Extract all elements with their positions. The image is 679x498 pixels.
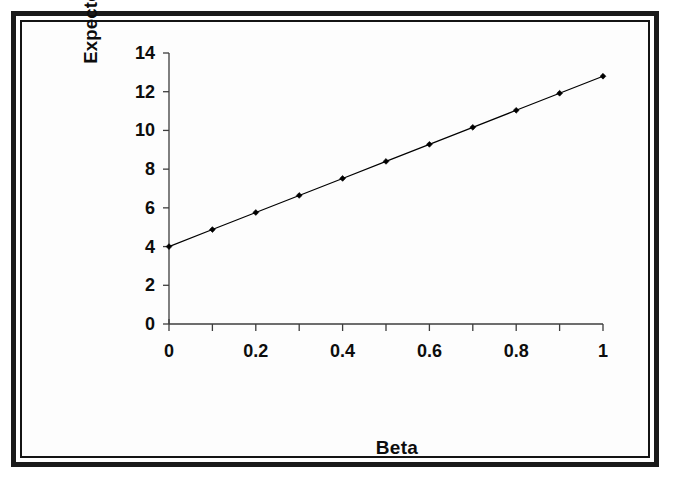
data-point-markers-group	[166, 73, 606, 249]
axes-group	[169, 53, 603, 324]
y-axis-tick-label: 10	[107, 120, 155, 141]
y-axis-tick-label: 8	[107, 159, 155, 180]
x-axis-tick-label: 0.8	[504, 341, 529, 362]
chart-plot-area: 02468101214 00.20.40.60.81 Expected Retu…	[22, 22, 648, 456]
tick-marks-group	[163, 53, 603, 331]
y-axis-tick-label: 4	[107, 236, 155, 257]
y-axis-title: Expected Return (%) .	[74, 0, 108, 116]
y-axis-tick-label: 2	[107, 275, 155, 296]
figure-inner-border: 02468101214 00.20.40.60.81 Expected Retu…	[20, 20, 650, 458]
x-axis-tick-label: 0.6	[417, 341, 442, 362]
x-axis-tick-label: 1	[598, 341, 608, 362]
y-axis-tick-label: 14	[107, 43, 155, 64]
figure-outer-border: 02468101214 00.20.40.60.81 Expected Retu…	[11, 11, 659, 467]
x-axis-tick-label: 0.4	[330, 341, 355, 362]
x-axis-tick-label: 0.2	[243, 341, 268, 362]
x-axis-tick-label: 0	[164, 341, 174, 362]
figure-border-gap: 02468101214 00.20.40.60.81 Expected Retu…	[16, 16, 654, 462]
y-axis-tick-label: 0	[107, 314, 155, 335]
x-axis-title: Beta	[162, 437, 632, 459]
figure-page: 02468101214 00.20.40.60.81 Expected Retu…	[0, 0, 679, 498]
y-axis-tick-label: 6	[107, 197, 155, 218]
y-axis-tick-label: 12	[107, 81, 155, 102]
